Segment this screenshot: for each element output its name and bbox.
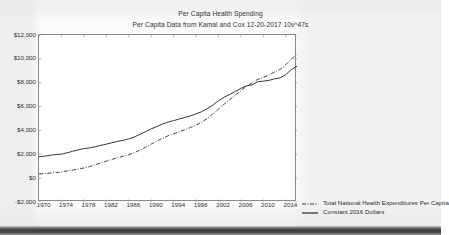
x-tick-label: 1982 (104, 201, 118, 208)
series-line-constant-2016-dollars (39, 66, 297, 157)
x-tick-label: 2002 (216, 201, 230, 208)
series-line-total-national-health-expenditures (39, 54, 297, 173)
legend-swatch-dash-dot-icon (302, 203, 318, 205)
plot-area (38, 34, 296, 201)
x-axis: 1970 1974 1978 1982 1986 1990 1994 1998 … (38, 201, 296, 213)
x-tick-label: 1970 (37, 201, 51, 208)
y-tick-label: $12,000 (2, 30, 36, 37)
plot-svg (39, 35, 297, 202)
y-axis: $12,000 $10,000 $8,000 $6,000 $4,000 $2,… (0, 0, 36, 226)
x-tick-label: 1998 (194, 201, 208, 208)
legend-swatch-solid-icon (302, 212, 318, 214)
x-tick-label: 1990 (149, 201, 163, 208)
x-tick-label: 1978 (82, 201, 96, 208)
chart-subtitle: Per Capita Data from Kamal and Cox 12-20… (0, 21, 441, 28)
legend-item: Total National Health Expenditures Per C… (302, 199, 440, 208)
y-tick-marks (39, 35, 297, 202)
x-tick-label: 2010 (261, 201, 275, 208)
x-tick-label: 2006 (239, 201, 253, 208)
x-tick-label: 1974 (59, 201, 73, 208)
y-tick-label: $6,000 (2, 102, 36, 109)
y-tick-label: -$2,000 (2, 197, 36, 204)
x-tick-marks (39, 35, 286, 202)
y-tick-label: $4,000 (2, 126, 36, 133)
x-tick-label: 2014 (284, 201, 298, 208)
y-tick-label: $0 (2, 173, 36, 180)
y-tick-label: $10,000 (2, 54, 36, 61)
x-tick-label: 1986 (126, 201, 140, 208)
legend-item: Constant 2016 Dollars (302, 208, 440, 217)
x-tick-label: 1994 (171, 201, 185, 208)
chart-legend: Total National Health Expenditures Per C… (302, 199, 440, 216)
chart-title: Per Capita Health Spending (0, 10, 441, 17)
y-tick-label: $8,000 (2, 78, 36, 85)
chart-figure: Per Capita Health Spending Per Capita Da… (0, 0, 441, 226)
y-tick-label: $2,000 (2, 149, 36, 156)
legend-label: Total National Health Expenditures Per C… (323, 199, 449, 206)
legend-label: Constant 2016 Dollars (323, 208, 384, 215)
scan-edge-strip (0, 226, 441, 235)
